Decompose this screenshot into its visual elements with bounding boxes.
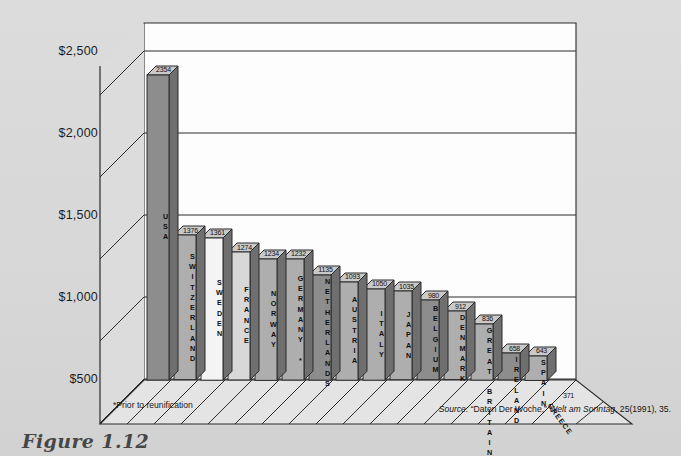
source-label: Source: [439, 404, 469, 414]
bar-value-label: 1093 [338, 273, 367, 280]
bar-series: 2354USA1376SWITZERLAND1361SWEDEN1274FRAN… [0, 0, 681, 456]
bar-category-label: IRELAND [498, 355, 520, 378]
figure-number: Figure 1.12 [22, 430, 149, 452]
bar-category-label: BELGIUM [417, 302, 439, 378]
bar-value-label: 658 [500, 345, 529, 352]
bar-value-label: 980 [419, 292, 448, 299]
bar-value-label: 1361 [203, 229, 232, 236]
bar-category-label: SWEDEN [201, 240, 223, 378]
bar-value-label: 1234 [257, 250, 286, 257]
bar-category-label: GREAT BRITAIN [471, 326, 493, 378]
bar-category-label: USA [147, 77, 169, 378]
source-quote: “Daten Der Woche,” [471, 404, 547, 414]
bar-value-label: 836 [473, 315, 502, 322]
bar-category-label: SWITZERLAND [174, 237, 196, 378]
bar-category-label: AUSTRIA [336, 284, 358, 378]
bar-category-label: DENMARK [444, 313, 466, 378]
bar-category-label: SPAIN [525, 358, 547, 378]
figure-root: $2,500 $2,000 $1,500 $1,000 $500 2354USA… [0, 0, 681, 456]
bar-value-label: 1376 [176, 227, 205, 234]
source-tail: , 25(1991), 35. [615, 404, 671, 414]
figure-caption: Figure 1.12 [22, 430, 157, 452]
bar-value-label: 2354 [149, 66, 178, 73]
bar-category-label: NETHERLANDS [309, 277, 331, 378]
footnote-prior-to-reunification: *Prior to reunification [113, 400, 193, 410]
bar-category-label: JAPAN [390, 293, 412, 378]
bar-category-label: ITALY [363, 291, 385, 378]
bar-value-label: 912 [446, 303, 475, 310]
bar-value-label: 1050 [365, 280, 394, 287]
bar-value-label: 1135 [311, 266, 340, 273]
bar-value-label: 643 [527, 347, 556, 354]
bar-value-label: 1274 [230, 244, 259, 251]
bar-value-label: 1232 [284, 250, 313, 257]
bar-category-label: FRANCE [228, 254, 250, 378]
bar-value-label: 371 [554, 392, 583, 399]
bar-category-label: GERMANY * [282, 261, 304, 378]
bar-category-label: NORWAY [255, 261, 277, 378]
bar-value-label: 1035 [392, 283, 421, 290]
